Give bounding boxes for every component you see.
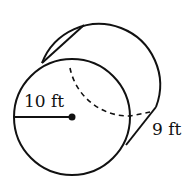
radius-label: 10 ft [24,91,64,111]
cylinder-diagram: 10 ft 9 ft [0,0,193,190]
top-edge-line [42,25,84,63]
back-circle-hidden-arc [70,68,150,116]
height-label: 9 ft [152,119,182,139]
center-point [69,114,76,121]
